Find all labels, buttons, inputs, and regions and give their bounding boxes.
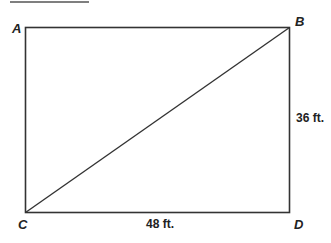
- width-dimension-label: 48 ft.: [146, 217, 174, 231]
- diagram-canvas: [0, 0, 331, 243]
- vertex-label-c: C: [18, 217, 27, 232]
- diagonal-cb: [26, 28, 290, 213]
- vertex-label-a: A: [12, 21, 21, 36]
- height-dimension-label: 36 ft.: [296, 111, 324, 125]
- vertex-label-b: B: [295, 14, 304, 29]
- vertex-label-d: D: [294, 217, 303, 232]
